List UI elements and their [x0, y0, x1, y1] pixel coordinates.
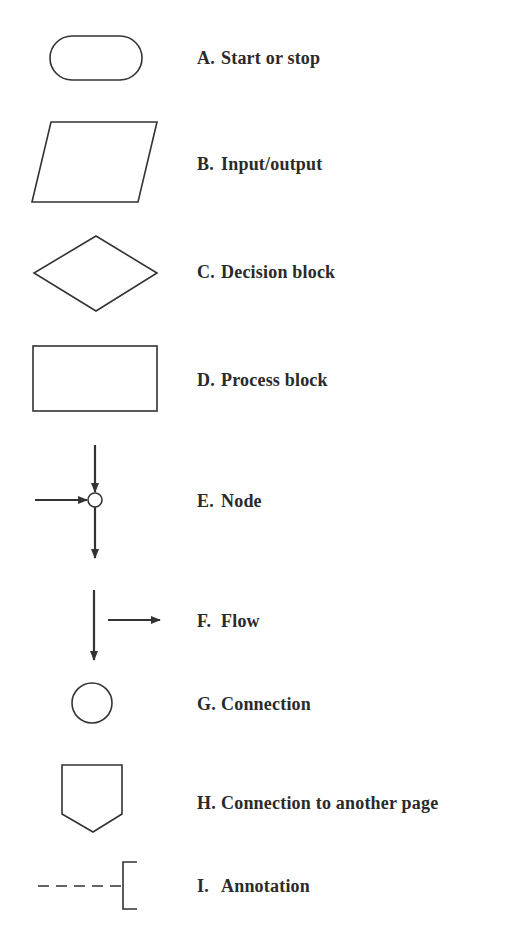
connection-symbol-icon [72, 683, 112, 723]
legend-label: Decision block [221, 262, 335, 282]
legend-item-annotation: I.Annotation [197, 876, 310, 897]
flow-symbol-icon [94, 590, 160, 660]
legend-item-flow: F.Flow [197, 611, 260, 632]
annotation-symbol-icon [38, 862, 137, 909]
legend-letter: G. [197, 694, 221, 715]
node-symbol-icon [35, 445, 102, 558]
legend-item-connection: G.Connection [197, 694, 311, 715]
decision-symbol-icon [34, 236, 157, 311]
legend-letter: F. [197, 611, 221, 632]
legend-letter: E. [197, 491, 221, 512]
process-symbol-icon [33, 346, 157, 411]
legend-letter: A. [197, 48, 221, 69]
legend-letter: D. [197, 370, 221, 391]
legend-item-input-output: B.Input/output [197, 154, 322, 175]
legend-item-node: E.Node [197, 491, 262, 512]
start-stop-symbol-icon [50, 36, 142, 80]
legend-label: Start or stop [221, 48, 320, 68]
legend-label: Process block [221, 370, 328, 390]
legend-label: Flow [221, 611, 260, 631]
legend-letter: H. [197, 793, 221, 814]
legend-letter: B. [197, 154, 221, 175]
legend-label: Annotation [221, 876, 310, 896]
legend-label: Node [221, 491, 262, 511]
legend-label: Input/output [221, 154, 322, 174]
input-output-symbol-icon [32, 122, 157, 202]
legend-letter: C. [197, 262, 221, 283]
legend-label: Connection [221, 694, 311, 714]
legend-item-start-stop: A.Start or stop [197, 48, 320, 69]
legend-item-process: D.Process block [197, 370, 328, 391]
legend-letter: I. [197, 876, 221, 897]
legend-label: Connection to another page [221, 793, 438, 813]
off-page-connection-symbol-icon [62, 765, 122, 832]
legend-item-decision: C.Decision block [197, 262, 335, 283]
legend-item-off-page-connection: H.Connection to another page [197, 793, 438, 814]
